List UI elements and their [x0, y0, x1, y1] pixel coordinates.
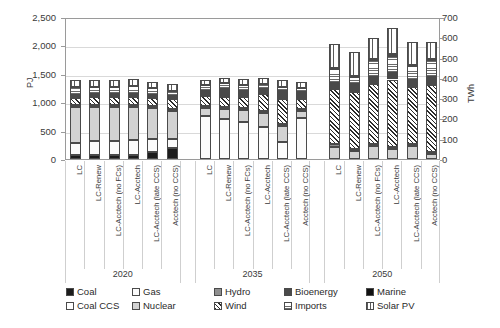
- bar-segment: [147, 82, 158, 88]
- bar-segment: [219, 78, 230, 83]
- bar-stack: [147, 82, 158, 159]
- bar-segment: [407, 144, 418, 146]
- bar-segment: [238, 108, 249, 110]
- y-tick-mark-right: [440, 119, 444, 120]
- bar-segment: [407, 42, 418, 65]
- x-axis-category-labels: LCLC-RenewLC-Acctech (no FCs)LC-AcctechL…: [65, 161, 440, 269]
- bar-segment: [426, 85, 437, 152]
- category-cell: LC-Acctech (no FCs): [363, 161, 382, 269]
- bar-segment: [426, 154, 437, 159]
- bar-segment: [200, 85, 211, 91]
- legend-item[interactable]: Coal CCS: [66, 300, 119, 311]
- category-label: LC-Renew: [354, 165, 363, 201]
- bar-stack: [349, 52, 360, 159]
- bar-segment: [238, 91, 249, 97]
- bar-segment: [329, 147, 340, 159]
- legend-label: Gas: [143, 286, 160, 297]
- bar-segment: [109, 87, 120, 94]
- bar-segment: [277, 99, 288, 124]
- bar-segment: [200, 108, 211, 116]
- bar-segment: [277, 91, 288, 99]
- legend-item[interactable]: Imports: [284, 300, 327, 311]
- bar-segment: [349, 84, 360, 92]
- bar-segment: [167, 91, 178, 96]
- bar-segment: [128, 140, 139, 155]
- category-cell: LC-Acctech (late CCS): [142, 161, 161, 269]
- category-cell: Acctech (no CCS): [291, 161, 310, 269]
- bar-segment: [89, 155, 100, 159]
- y-tick-mark-right: [440, 79, 444, 80]
- bar-segment: [219, 89, 230, 96]
- y-tick-mark-left: [61, 18, 65, 19]
- bar-stack: [70, 80, 81, 159]
- category-cell: LC-Acctech (late CCS): [272, 161, 291, 269]
- bar-stack: [109, 80, 120, 159]
- bar-segment: [147, 88, 158, 94]
- bar-segment: [200, 106, 211, 108]
- gridline: [66, 133, 439, 134]
- bar-segment: [70, 87, 81, 94]
- bar-stack: [219, 78, 230, 159]
- bar-segment: [89, 87, 100, 94]
- y-tick-label-right: 100: [442, 134, 458, 145]
- plot-area: [65, 18, 440, 160]
- legend-item[interactable]: Wind: [214, 300, 247, 311]
- y-tick-label-right: 500: [442, 53, 458, 64]
- bar-segment: [200, 96, 211, 106]
- bar-segment: [109, 155, 120, 159]
- y-tick-label-left: 0: [16, 154, 56, 165]
- bar-segment: [368, 146, 379, 159]
- category-cell: LC-Acctech: [253, 161, 272, 269]
- bar-segment: [147, 98, 158, 107]
- legend-item[interactable]: Solar PV: [366, 300, 415, 311]
- bar-segment: [277, 142, 288, 159]
- bar-stack: [329, 44, 340, 159]
- legend-item[interactable]: Bioenergy: [284, 286, 338, 297]
- y-tick-label-left: 2,500: [16, 12, 56, 23]
- legend-label: Marine: [377, 286, 406, 297]
- legend-item[interactable]: Coal: [66, 286, 97, 297]
- y-tick-mark-right: [440, 18, 444, 19]
- legend-label: Nuclear: [143, 300, 176, 311]
- chart-legend: CoalCoal CCSGasNuclearHydroWindBioenergy…: [66, 286, 466, 316]
- stacked-bar-chart: PJ TWh 05001,0001,5002,0002,500 01002003…: [0, 0, 500, 328]
- legend-item[interactable]: Nuclear: [132, 300, 176, 311]
- bar-segment: [296, 111, 307, 117]
- bar-segment: [368, 84, 379, 144]
- bar-segment: [277, 87, 288, 90]
- gridline: [66, 104, 439, 105]
- y-tick-label-right: 300: [442, 93, 458, 104]
- legend-item[interactable]: Gas: [132, 286, 160, 297]
- bar-stack: [407, 42, 418, 159]
- bar-segment: [128, 105, 139, 107]
- bar-segment: [426, 60, 437, 76]
- y-tick-label-left: 500: [16, 126, 56, 137]
- y-tick-label-right: 600: [442, 32, 458, 43]
- bioenergy-swatch: [284, 288, 292, 296]
- bar-segment: [128, 94, 139, 97]
- bar-segment: [407, 87, 418, 144]
- bar-segment: [238, 85, 249, 91]
- legend-item[interactable]: Marine: [366, 286, 406, 297]
- legend-label: Solar PV: [377, 300, 415, 311]
- bar-stack: [258, 78, 269, 159]
- legend-item[interactable]: Hydro: [214, 286, 250, 297]
- bar-segment: [70, 155, 81, 159]
- bar-segment: [349, 52, 360, 75]
- category-label: LC-Acctech (no FCs): [114, 165, 123, 236]
- y-tick-label-left: 2,000: [16, 40, 56, 51]
- marine-swatch: [366, 288, 374, 296]
- category-label: LC-Acctech (no FCs): [373, 165, 382, 236]
- category-label: LC-Acctech (no FCs): [243, 165, 252, 236]
- bar-segment: [70, 143, 81, 155]
- bar-stack: [387, 28, 398, 159]
- group-label-2020: 2020: [65, 269, 181, 283]
- bar-segment: [407, 146, 418, 159]
- bar-stack: [167, 84, 178, 159]
- bar-segment: [329, 89, 340, 145]
- bar-segment: [329, 83, 340, 88]
- bar-segment: [200, 80, 211, 85]
- category-label: LC-Acctech (late CCS): [282, 165, 291, 242]
- category-cell: LC: [195, 161, 214, 269]
- bar-stack: [296, 82, 307, 159]
